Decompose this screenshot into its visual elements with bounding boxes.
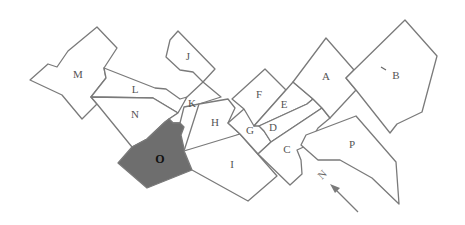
region-j[interactable]: J [166,31,215,82]
region-l-label: L [132,83,139,95]
region-b[interactable]: B [346,20,437,133]
region-k-label: K [188,97,196,109]
region-a-label: A [322,70,330,82]
region-c-label: C [283,143,290,155]
north-arrow: N [315,167,358,212]
region-h-label: H [211,116,219,128]
region-m-label: M [73,68,83,80]
district-map: M L N J K H O I G F [0,0,465,225]
region-b-label: B [392,69,399,81]
region-e-label: E [281,98,288,110]
north-label: N [315,167,329,181]
region-p-label: P [349,138,355,150]
region-f-label: F [256,88,262,100]
region-g-label: G [246,124,254,136]
region-i-label: I [230,158,234,170]
region-j-label: J [186,50,191,62]
region-n-label: N [131,108,139,120]
region-d-label: D [269,121,277,133]
region-o-label: O [155,152,164,166]
